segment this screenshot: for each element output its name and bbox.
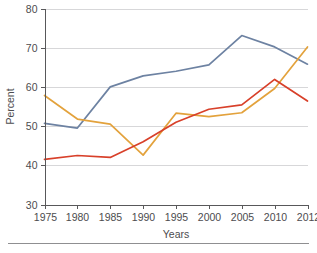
y-tick-label: 80 <box>26 3 38 15</box>
y-tick-label: 40 <box>26 159 38 171</box>
y-tick-labels: 304050607080 <box>26 3 45 211</box>
y-tick-label: 30 <box>26 199 38 211</box>
y-axis-title: Percent <box>4 88 16 124</box>
x-tick-label: 2000 <box>198 211 222 223</box>
chart-figure: 3040506070801975198019851990199520002005… <box>0 0 317 253</box>
y-tick-label: 50 <box>26 120 38 132</box>
x-tick-label: 1995 <box>165 211 189 223</box>
x-tick-label: 1980 <box>66 211 90 223</box>
x-tick-labels: 197519801985199019952000200520102012 <box>34 205 317 223</box>
gridlines <box>45 10 308 166</box>
x-tick-label: 2010 <box>264 211 288 223</box>
axes <box>45 9 308 206</box>
x-tick-label: 2005 <box>231 211 255 223</box>
x-tick-label: 1975 <box>34 211 58 223</box>
series-line-orange-series <box>45 47 308 155</box>
x-tick-label: 1985 <box>99 211 123 223</box>
line-chart: 3040506070801975198019851990199520002005… <box>0 0 317 253</box>
x-tick-label: 1990 <box>132 211 156 223</box>
y-tick-label: 70 <box>26 42 38 54</box>
footer-divider <box>8 243 309 244</box>
series-group <box>45 36 308 160</box>
y-tick-label: 60 <box>26 81 38 93</box>
x-axis-title: Years <box>163 228 189 240</box>
x-tick-label: 2012 <box>297 211 317 223</box>
